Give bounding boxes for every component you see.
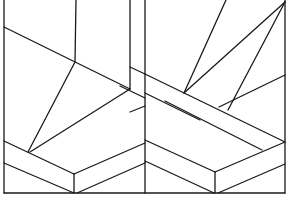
line-right-fan-3 <box>228 2 285 110</box>
line-left-diag-upper <box>4 27 130 89</box>
line-right-fan-4 <box>219 75 285 107</box>
line-mid-diag-2 <box>130 106 145 112</box>
line-left-strip-bot <box>4 163 74 193</box>
line-mid-diag-1 <box>120 86 145 98</box>
line-right-strip-b-top <box>145 140 215 172</box>
line-diagram <box>0 0 290 202</box>
line-left-post-b-ext <box>130 67 145 74</box>
line-right-strip-a-top <box>145 74 285 142</box>
line-left-up-top <box>74 143 145 174</box>
line-right-fan-1 <box>184 0 226 93</box>
line-right-strip-b-bot <box>145 161 214 193</box>
line-left-post-a <box>75 0 76 62</box>
line-right-up-top <box>215 142 285 172</box>
line-right-fan-2 <box>184 2 285 93</box>
line-right-up-bot <box>218 164 285 193</box>
diagram-svg <box>0 0 290 202</box>
line-right-diag-long <box>165 101 262 150</box>
line-left-up-bot <box>77 163 145 193</box>
